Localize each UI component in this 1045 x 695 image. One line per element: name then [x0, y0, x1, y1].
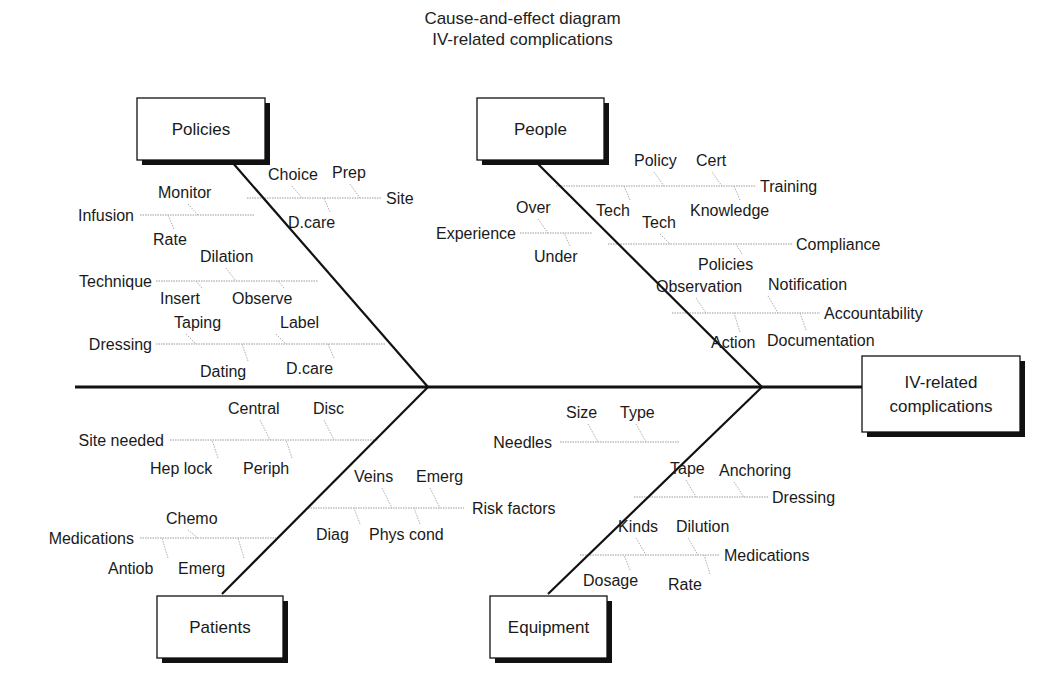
rib-label-equipment: Medications — [724, 547, 809, 564]
sub-cause-label: Dilution — [676, 518, 729, 535]
sub-connector — [328, 344, 334, 358]
box-label: complications — [890, 397, 993, 416]
sub-cause-label: Action — [711, 334, 755, 351]
sub-connector — [414, 508, 420, 524]
rib-label-people: Training — [760, 178, 817, 195]
rib-label-policies: Technique — [79, 273, 152, 290]
rib-label-people: Experience — [436, 225, 516, 242]
sub-connector — [686, 480, 696, 497]
sub-cause-label: Taping — [174, 314, 221, 331]
sub-cause-label: Type — [620, 404, 655, 421]
rib-label-policies: Dressing — [89, 336, 152, 353]
sub-cause-label: Observe — [232, 290, 293, 307]
fishbone-diagram: SiteChoicePrepD.careInfusionMonitorRateT… — [0, 0, 1045, 695]
rib-label-patients: Medications — [49, 530, 134, 547]
rib-label-equipment: Dressing — [772, 489, 835, 506]
rib-label-people: Accountability — [824, 305, 923, 322]
labels-layer: SiteChoicePrepD.careInfusionMonitorRateT… — [49, 152, 923, 593]
sub-cause-label: Observation — [656, 278, 742, 295]
sub-cause-label: Rate — [668, 576, 702, 593]
box-label: IV-related — [905, 373, 978, 392]
sub-connector — [736, 244, 742, 254]
sub-cause-label: Periph — [243, 460, 289, 477]
category-box-patients: Patients — [157, 596, 288, 663]
rib-label-equipment: Needles — [493, 434, 552, 451]
category-box-people: People — [477, 98, 609, 165]
sub-connector — [238, 538, 244, 558]
sub-cause-label: Antiob — [108, 560, 153, 577]
sub-cause-label: Dosage — [583, 572, 638, 589]
sub-cause-label: Over — [516, 199, 551, 216]
sub-connector — [768, 296, 778, 313]
sub-connector — [624, 555, 630, 570]
bone-patients — [222, 387, 428, 594]
sub-connector — [588, 424, 598, 442]
sub-cause-label: Veins — [354, 468, 393, 485]
sub-cause-label: Dilation — [200, 248, 253, 265]
bone-people — [538, 164, 762, 387]
box-frame — [862, 356, 1020, 432]
sub-connector — [196, 281, 202, 288]
sub-connector — [654, 172, 664, 186]
rib-label-policies: Infusion — [78, 207, 134, 224]
sub-cause-label: Hep lock — [150, 460, 213, 477]
rib-label-patients: Site needed — [79, 432, 164, 449]
sub-cause-label: Choice — [268, 166, 318, 183]
sub-connector — [688, 538, 698, 555]
sub-connector — [324, 198, 330, 212]
effect-box: IV-relatedcomplications — [862, 356, 1025, 437]
sub-connector — [538, 219, 548, 233]
category-box-equipment: Equipment — [490, 596, 612, 663]
sub-connector — [704, 555, 710, 574]
sub-connector — [278, 281, 284, 288]
box-label: Patients — [189, 618, 250, 637]
sub-cause-label: Label — [280, 314, 319, 331]
sub-cause-label: Notification — [768, 276, 847, 293]
sub-connector — [354, 508, 360, 524]
rib-label-patients: Risk factors — [472, 500, 556, 517]
rib-label-policies: Site — [386, 190, 414, 207]
sub-connector — [734, 186, 740, 200]
box-label: People — [514, 120, 567, 139]
sub-connector — [696, 298, 706, 313]
sub-cause-label: Chemo — [166, 510, 218, 527]
sub-cause-label: Central — [228, 400, 280, 417]
sub-connector — [188, 530, 198, 538]
sub-connector — [162, 538, 168, 558]
sub-connector — [564, 233, 570, 246]
sub-cause-label: Documentation — [767, 332, 875, 349]
sub-cause-label: Size — [566, 404, 597, 421]
sub-cause-label: Policy — [634, 152, 677, 169]
sub-cause-label: Policies — [698, 256, 753, 273]
sub-connector — [260, 420, 270, 440]
sub-connector — [286, 440, 292, 458]
sub-cause-label: Dating — [200, 363, 246, 380]
sub-cause-label: D.care — [286, 360, 333, 377]
sub-cause-label: Prep — [332, 164, 366, 181]
sub-cause-label: Under — [534, 248, 578, 265]
sub-connector — [188, 204, 198, 215]
sub-cause-label: Rate — [153, 231, 187, 248]
sub-cause-label: Tech — [642, 214, 676, 231]
sub-cause-label: Kinds — [618, 518, 658, 535]
sub-connector — [226, 268, 236, 281]
sub-cause-label: Anchoring — [719, 462, 791, 479]
sub-cause-label: Emerg — [416, 468, 463, 485]
sub-connector — [800, 313, 806, 330]
sub-connector — [636, 538, 646, 555]
sub-cause-label: Tape — [670, 460, 705, 477]
box-label: Policies — [172, 120, 231, 139]
sub-connector — [168, 215, 174, 229]
sub-cause-label: Diag — [316, 526, 349, 543]
sub-connector — [212, 440, 218, 458]
sub-connector — [350, 184, 360, 198]
sub-cause-label: Monitor — [158, 184, 212, 201]
sub-connector — [624, 186, 630, 200]
rib-label-people: Compliance — [796, 236, 881, 253]
sub-connector — [382, 488, 392, 508]
sub-cause-label: D.care — [288, 214, 335, 231]
box-label: Equipment — [508, 618, 590, 637]
sub-cause-label: Phys cond — [369, 526, 444, 543]
sub-connector — [242, 344, 248, 361]
sub-connector — [276, 334, 286, 344]
